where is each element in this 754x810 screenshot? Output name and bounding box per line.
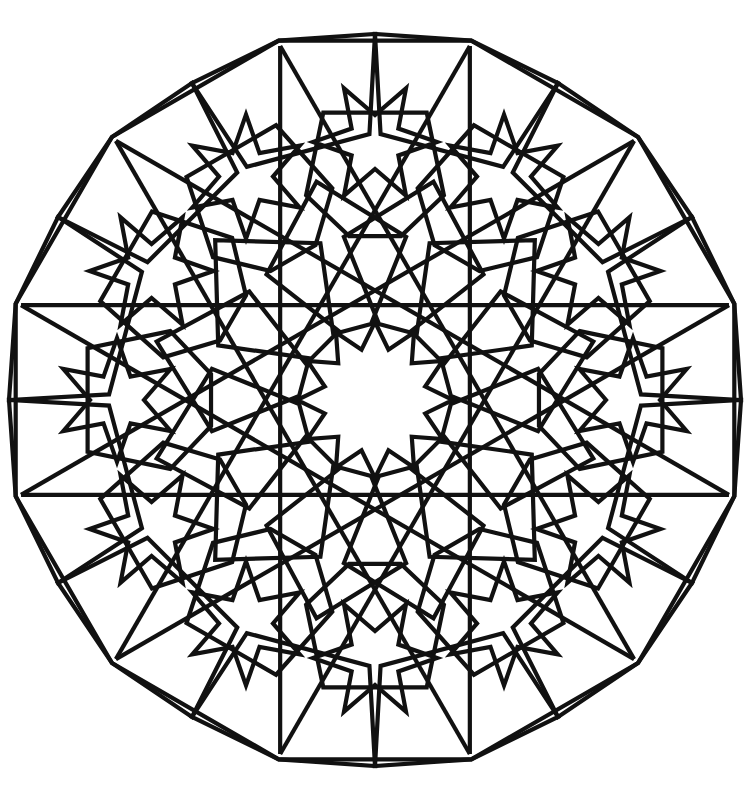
geometric-pattern-figure: Islamic Geometric Star Pattern (0, 0, 754, 810)
pattern-canvas: Islamic Geometric Star Pattern (0, 0, 754, 810)
